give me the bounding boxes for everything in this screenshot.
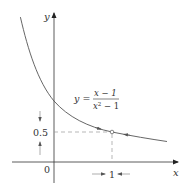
origin-label: 0 [44, 164, 50, 175]
equation-denominator: x2 − 1 [93, 101, 119, 112]
function-curve [20, 17, 167, 141]
x-axis-label: x [173, 167, 179, 178]
equation-lhs: y = [73, 93, 90, 104]
limit-graph: y x 0 0.5 1 y = x − 1 x2 − 1 [0, 0, 192, 192]
curve-arrow-left [95, 128, 101, 130]
x-tick-label-1: 1 [109, 169, 115, 180]
y-axis-label: y [43, 11, 50, 22]
equation-numerator: x − 1 [94, 88, 117, 98]
hole-open-circle [110, 130, 114, 134]
y-tick-label-0-5: 0.5 [33, 127, 48, 138]
equation-label: y = x − 1 x2 − 1 [73, 88, 119, 111]
